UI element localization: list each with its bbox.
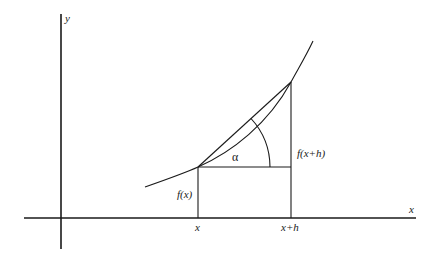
x-tick-label: x xyxy=(194,221,200,233)
y-axis-label: y xyxy=(64,12,70,24)
x-plus-h-tick-label: x+h xyxy=(280,221,299,233)
fx-label: f(x) xyxy=(177,188,193,201)
function-curve xyxy=(145,41,313,187)
alpha-angle-label: α xyxy=(232,150,239,164)
x-axis-label: x xyxy=(408,203,414,215)
angle-arc xyxy=(251,119,270,168)
secant-line xyxy=(198,82,291,167)
derivative-diagram: x y x x+h f(x) f(x+h) α xyxy=(0,0,437,257)
fx-plus-h-label: f(x+h) xyxy=(297,147,326,160)
